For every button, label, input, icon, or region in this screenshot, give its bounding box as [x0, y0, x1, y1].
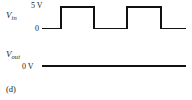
- waveform-canvas: [0, 0, 192, 100]
- waveform-figure: Vin 5 V 0 Vout 0 V (d): [0, 0, 192, 100]
- vin-waveform-trace: [42, 7, 186, 29]
